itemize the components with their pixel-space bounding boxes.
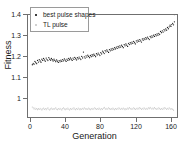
x-tick-mark xyxy=(136,118,137,122)
legend-marker-dot-icon xyxy=(35,14,37,16)
y-tick-mark xyxy=(23,56,27,57)
fitness-vs-generation-chart: 1.4 1.3 1.2 1.1 1 0 40 80 120 160 Genera… xyxy=(0,0,189,145)
legend-item-label: TL pulse xyxy=(43,20,68,29)
x-tick-label: 120 xyxy=(130,123,142,130)
y-axis-label: Fitness xyxy=(3,25,13,85)
x-axis-label: Generation xyxy=(0,131,189,141)
y-tick-label: 1.4 xyxy=(11,11,21,18)
x-tick-label: 40 xyxy=(61,123,69,130)
x-tick-mark xyxy=(30,118,31,122)
legend-marker-dot-icon xyxy=(35,24,37,26)
x-tick-mark xyxy=(65,118,66,122)
x-tick-label: 0 xyxy=(28,123,32,130)
y-tick-mark xyxy=(23,14,27,15)
y-tick-label: 1 xyxy=(17,95,21,102)
legend: best pulse shapes TL pulse xyxy=(30,7,89,32)
y-tick-mark xyxy=(23,77,27,78)
legend-item-label: best pulse shapes xyxy=(43,10,95,19)
x-tick-mark xyxy=(100,118,101,122)
y-tick-mark xyxy=(23,35,27,36)
x-tick-label: 160 xyxy=(165,123,177,130)
x-tick-label: 80 xyxy=(96,123,104,130)
y-tick-mark xyxy=(23,98,27,99)
x-tick-mark xyxy=(171,118,172,122)
